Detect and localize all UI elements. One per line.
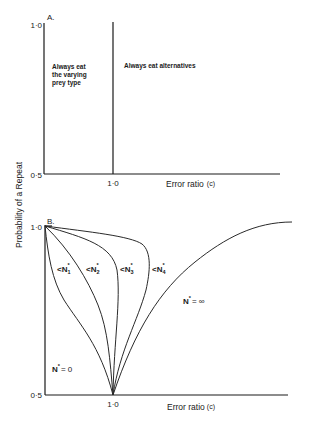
label-n1: <N1* <box>57 262 71 275</box>
panel-b-x-tick: 1·0 <box>107 400 119 409</box>
panel-a-left-text-1: Always eat <box>52 63 86 71</box>
panel-b-tag: B. <box>47 217 55 226</box>
label-n3: <N3* <box>120 262 134 275</box>
panel-b-x-label: Error ratio(c) <box>167 402 215 412</box>
panel-a-y-bottom-tick: 0·5 <box>30 171 42 180</box>
y-axis-label: Probability of a Repeat <box>14 161 24 248</box>
panel-a: A. 1·0 0·5 1·0 Error ratio(c) Always eat… <box>30 13 280 189</box>
label-n4: <N4* <box>152 262 166 275</box>
panel-a-left-text-3: prey type <box>52 79 81 87</box>
panel-a-y-top-tick: 1·0 <box>30 21 42 30</box>
label-n2: <N2* <box>86 262 100 275</box>
panel-b: B. 1·0 0·5 1·0 Error ratio(c) <N1* <N2* … <box>30 217 292 412</box>
panel-a-left-text-2: the varying <box>52 71 87 79</box>
label-n-zero: N*= 0 <box>52 363 73 374</box>
panel-a-right-text: Always eat alternatives <box>124 62 196 70</box>
figure: Probability of a Repeat A. 1·0 0·5 1·0 E… <box>0 0 310 425</box>
panel-a-tag: A. <box>47 13 55 22</box>
panel-b-y-top-tick: 1·0 <box>30 223 42 232</box>
label-n-infinity: N*= ∞ <box>183 295 205 306</box>
panel-a-x-tick: 1·0 <box>107 179 119 188</box>
panel-a-x-label: Error ratio(c) <box>166 179 215 189</box>
panel-b-y-bottom-tick: 0·5 <box>30 391 42 400</box>
